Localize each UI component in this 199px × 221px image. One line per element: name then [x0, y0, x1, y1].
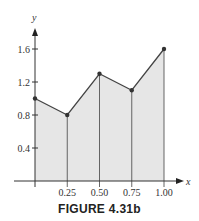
data-point — [162, 47, 166, 51]
x-axis-arrow-icon — [176, 178, 184, 184]
data-point — [65, 113, 69, 117]
x-tick-label: 1.00 — [155, 187, 173, 198]
x-tick-label: 0.25 — [59, 187, 77, 198]
x-axis-label: x — [185, 176, 191, 187]
x-tick-label: 0.50 — [91, 187, 109, 198]
y-tick-label: 1.6 — [18, 44, 31, 55]
y-axis-label: y — [31, 12, 37, 23]
y-tick-label: 1.2 — [18, 77, 31, 88]
data-point — [130, 88, 134, 92]
y-tick-label: 0.4 — [18, 143, 31, 154]
y-axis-arrow-icon — [32, 28, 38, 36]
data-point — [33, 96, 37, 100]
x-tick-label: 0.75 — [123, 187, 141, 198]
y-tick-label: 0.8 — [18, 110, 31, 121]
data-point — [97, 72, 101, 76]
figure-caption: FIGURE 4.31b — [0, 202, 199, 216]
chart: 0.40.81.21.60.250.500.751.00 y x — [0, 0, 199, 221]
